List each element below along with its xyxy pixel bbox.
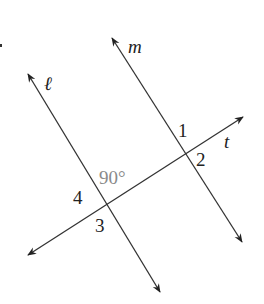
label-angle-2: 2 (196, 149, 206, 170)
label-angle-4: 4 (73, 187, 83, 208)
label-angle-3: 3 (95, 215, 105, 236)
line-m (112, 38, 242, 242)
edge-artifact (0, 44, 2, 47)
line-t (28, 117, 243, 255)
label-angle-90: 90° (99, 167, 126, 188)
label-angle-1: 1 (178, 120, 188, 141)
parallel-lines-diagram: ℓ m t 1 2 90° 4 3 (0, 0, 264, 304)
label-line-l: ℓ (44, 73, 52, 94)
label-line-t: t (224, 131, 230, 152)
label-line-m: m (128, 36, 142, 57)
